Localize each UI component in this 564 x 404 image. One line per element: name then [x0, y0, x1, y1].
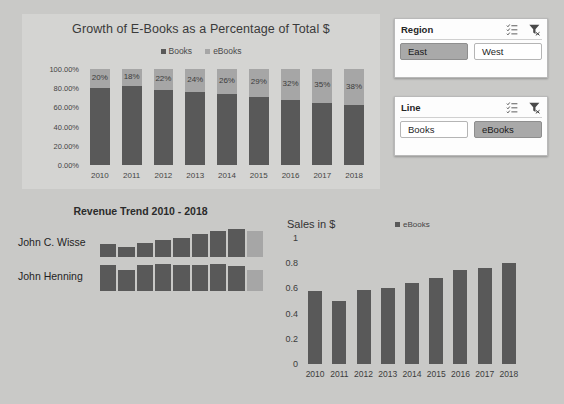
sales-bar-fill [308, 291, 322, 364]
growth-of-ebooks-chart[interactable]: Growth of E-Books as a Percentage of Tot… [22, 14, 380, 189]
x-axis-tick: 2013 [378, 369, 397, 379]
bar-segment-ebooks: 38% [344, 69, 364, 105]
slicer-line-item-books[interactable]: Books [400, 121, 468, 138]
legend-label-ebooks: eBooks [213, 46, 241, 56]
x-axis-tick: 2015 [427, 369, 446, 379]
stacked-bar[interactable]: 22%2012 [154, 69, 174, 165]
sparkline-bar [100, 244, 116, 257]
legend-item-ebooks[interactable]: eBooks [205, 46, 241, 56]
x-axis-tick: 2016 [281, 171, 301, 180]
sales-bar-fill [502, 263, 516, 364]
stacked-bar[interactable]: 38%2018 [344, 69, 364, 165]
legend-label-ebooks: eBooks [403, 220, 430, 229]
sales-chart-legend: eBooks [395, 220, 430, 229]
legend-label-books: Books [169, 46, 193, 56]
x-axis-tick: 2018 [499, 369, 518, 379]
slicer-region-item-west[interactable]: West [474, 43, 542, 60]
x-axis-tick: 2011 [122, 171, 142, 180]
sparkline-chart [100, 227, 263, 257]
sparkline-row-label: John C. Wisse [18, 227, 100, 257]
stacked-bar[interactable]: 18%2011 [122, 69, 142, 165]
stacked-bar[interactable]: 35%2017 [312, 69, 332, 165]
x-axis-tick: 2012 [154, 171, 174, 180]
x-axis-tick: 2017 [475, 369, 494, 379]
x-axis-tick: 2018 [344, 171, 364, 180]
bar-segment-ebooks: 22% [154, 69, 174, 90]
y-axis-tick: 1 [293, 233, 298, 243]
bar-data-label: 26% [217, 77, 237, 85]
stacked-bar[interactable]: 20%2010 [90, 69, 110, 165]
bar-segment-ebooks: 29% [249, 69, 269, 97]
slicer-region-divider [400, 39, 542, 40]
sales-bar[interactable]: 2012 [357, 238, 371, 364]
x-axis-tick: 2013 [185, 171, 205, 180]
chart-title: Growth of E-Books as a Percentage of Tot… [22, 22, 380, 36]
dashboard-canvas: Growth of E-Books as a Percentage of Tot… [0, 0, 564, 404]
x-axis-tick: 2010 [306, 369, 325, 379]
bar-segment-books [344, 105, 364, 165]
sales-bar-fill [357, 290, 371, 364]
x-axis-tick: 2014 [217, 171, 237, 180]
y-axis-tick: 0.4 [285, 309, 298, 319]
sparkline-bar [210, 264, 226, 291]
sparkline-bar [118, 247, 134, 257]
sales-bar[interactable]: 2018 [502, 238, 516, 364]
sparkline-bar [155, 264, 171, 291]
sparkline-row[interactable]: John Henning [18, 261, 263, 291]
sparkline-chart [100, 261, 263, 291]
y-axis-tick: 20.00% [54, 141, 79, 150]
y-axis-tick: 0.6 [285, 283, 298, 293]
bar-segment-books [249, 97, 269, 165]
bar-segment-books [154, 90, 174, 165]
sales-plot-area: 00.20.40.60.8120102011201220132014201520… [303, 238, 521, 364]
slicer-region[interactable]: Region [394, 18, 548, 78]
legend-swatch-ebooks [395, 222, 400, 227]
sparkline-row-label: John Henning [18, 261, 100, 291]
stacked-bar[interactable]: 32%2016 [281, 69, 301, 165]
sparkline-bar [100, 265, 116, 291]
stacked-bar[interactable]: 26%2014 [217, 69, 237, 165]
multi-select-icon[interactable] [506, 100, 519, 113]
sparkline-bar [118, 270, 134, 291]
sparkline-bar [192, 234, 208, 257]
sales-bar-fill [405, 283, 419, 364]
sales-bar[interactable]: 2010 [308, 238, 322, 364]
multi-select-icon[interactable] [506, 22, 519, 35]
sparkline-row[interactable]: John C. Wisse [18, 227, 263, 257]
sales-bar[interactable]: 2014 [405, 238, 419, 364]
stacked-bar[interactable]: 24%2013 [185, 69, 205, 165]
slicer-line[interactable]: Line [394, 96, 548, 156]
slicer-region-item-east[interactable]: East [400, 43, 468, 60]
clear-filter-icon[interactable] [528, 22, 541, 35]
clear-filter-icon[interactable] [528, 100, 541, 113]
slicer-region-title: Region [401, 24, 433, 35]
sales-bar[interactable]: 2011 [332, 238, 346, 364]
sparkline-bar [247, 270, 263, 291]
x-axis-tick: 2012 [354, 369, 373, 379]
y-axis-tick: 0.8 [285, 258, 298, 268]
slicer-line-header: Line [395, 97, 547, 117]
bar-segment-books [217, 94, 237, 165]
sales-in-dollars-chart[interactable]: Sales in $ eBooks 00.20.40.60.8120102011… [275, 215, 535, 395]
bar-data-label: 22% [154, 75, 174, 83]
bar-data-label: 38% [344, 83, 364, 91]
revenue-trend-sparklines[interactable]: Revenue Trend 2010 - 2018 John C. Wisse … [18, 205, 263, 295]
slicer-region-items: East West [400, 43, 542, 60]
bar-data-label: 32% [281, 80, 301, 88]
sales-bar-fill [381, 288, 395, 364]
slicer-item-label: eBooks [482, 124, 514, 135]
legend-item-books[interactable]: Books [161, 46, 193, 56]
stacked-bar[interactable]: 29%2015 [249, 69, 269, 165]
sales-bar[interactable]: 2016 [453, 238, 467, 364]
sales-bar[interactable]: 2013 [381, 238, 395, 364]
x-axis-tick: 2017 [312, 171, 332, 180]
slicer-line-divider [400, 117, 542, 118]
sales-bar-fill [478, 268, 492, 364]
sales-bar[interactable]: 2017 [478, 238, 492, 364]
sales-bar[interactable]: 2015 [429, 238, 443, 364]
slicer-line-item-ebooks[interactable]: eBooks [474, 121, 542, 138]
bar-data-label: 35% [312, 81, 332, 89]
y-axis-tick: 0 [293, 359, 298, 369]
bar-segment-books [122, 86, 142, 165]
y-axis-tick: 0.00% [58, 161, 79, 170]
